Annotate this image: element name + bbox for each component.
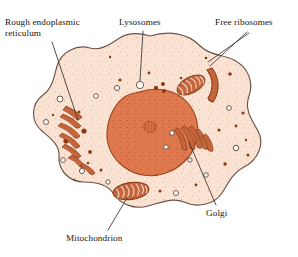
nucleolus (144, 122, 156, 133)
lysosome (227, 106, 232, 111)
free-ribosome (88, 150, 92, 154)
lysosome (79, 168, 84, 173)
free-ribosome (228, 72, 232, 76)
leader-line-mitochondrion (108, 198, 127, 230)
free-ribosome (241, 111, 244, 114)
free-ribosome (162, 89, 166, 93)
lysosome (114, 85, 119, 90)
free-ribosome (81, 128, 86, 133)
lysosome (136, 81, 143, 88)
label-lysosomes: Lysosomes (119, 17, 161, 28)
cell-diagram-figure: Rough endoplasmic reticulum Lysosomes Fr… (0, 0, 298, 257)
label-golgi: Golgi (206, 208, 227, 219)
lysosome (204, 173, 209, 178)
label-free-ribosomes: Free ribosomes (215, 17, 273, 28)
lysosome (233, 145, 239, 151)
lysosome (106, 180, 110, 184)
lysosome (94, 94, 99, 99)
free-ribosome (154, 86, 158, 90)
lysosome (170, 131, 175, 136)
lysosome (44, 120, 49, 125)
free-ribosome (217, 128, 220, 131)
label-mitochondrion: Mitochondrion (66, 233, 122, 244)
lysosome (188, 158, 192, 162)
lysosome (164, 145, 168, 149)
free-ribosome (161, 82, 165, 86)
free-ribosome (247, 154, 250, 157)
lysosome (61, 158, 66, 163)
lysosome (57, 96, 63, 102)
label-rough-endoplasmic-reticulum: Rough endoplasmic reticulum (5, 17, 80, 38)
cell-illustration (0, 0, 298, 257)
lysosome (174, 191, 179, 196)
